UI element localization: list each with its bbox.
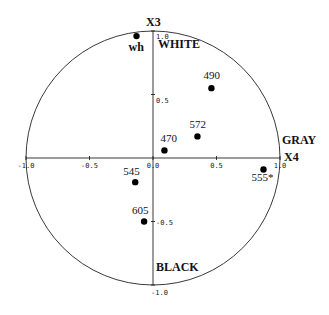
annotation-gray: GRAY xyxy=(282,133,317,147)
data-point-label: 605 xyxy=(132,204,149,216)
x-tick-label: 0.5 xyxy=(210,162,223,170)
data-point-label: 545 xyxy=(123,165,140,177)
y-tick-label: -1.0 xyxy=(151,289,168,297)
x-axis-label: X4 xyxy=(284,150,299,164)
unit-circle-scatter-chart: -1.0-0.50.00.51.01.00.5-0.5-1.0 X3 X4 WH… xyxy=(0,0,329,315)
y-axis-label: X3 xyxy=(146,15,161,29)
data-point xyxy=(161,147,167,153)
data-point xyxy=(133,33,139,39)
data-point xyxy=(194,133,200,139)
data-point-label: 490 xyxy=(203,69,220,81)
data-point xyxy=(141,218,147,224)
data-point-label: wh xyxy=(128,40,144,54)
x-tick-label: 0.0 xyxy=(147,162,160,170)
annotation-black: BLACK xyxy=(156,260,199,274)
data-point-label: 572 xyxy=(189,118,206,130)
y-tick-label: 0.5 xyxy=(156,97,169,105)
x-tick-label: -0.5 xyxy=(81,162,98,170)
x-tick-label: -1.0 xyxy=(18,162,35,170)
data-point xyxy=(132,179,138,185)
annotation-white: WHITE xyxy=(158,37,200,51)
y-tick-label: -0.5 xyxy=(156,219,173,227)
data-point-label: 470 xyxy=(160,132,177,144)
data-point xyxy=(208,85,214,91)
data-point-label: 555* xyxy=(251,171,273,183)
